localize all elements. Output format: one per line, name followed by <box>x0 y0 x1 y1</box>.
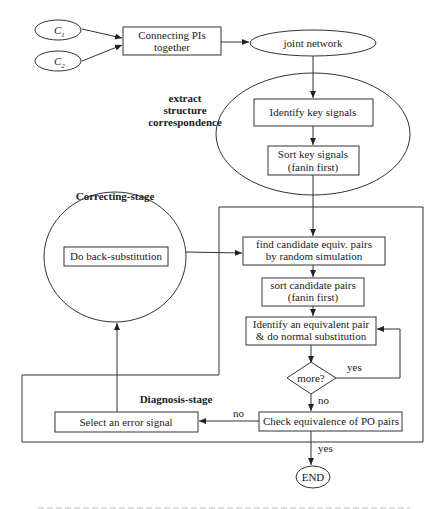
flowchart: C1 C2 Connecting PIs together joint netw… <box>0 0 447 509</box>
svg-text:(fanin first): (fanin first) <box>288 291 339 304</box>
no-label-check: no <box>233 407 245 419</box>
svg-text:Select an error signal: Select an error signal <box>79 416 172 428</box>
yes-label-end: yes <box>318 442 333 454</box>
svg-text:END: END <box>302 471 325 483</box>
find-candidate-box: find candidate equiv. pairs by random si… <box>243 237 385 265</box>
connecting-pis-box: Connecting PIs together <box>123 27 221 55</box>
joint-network-node: joint network <box>250 30 376 56</box>
svg-text:Connecting PIs: Connecting PIs <box>138 29 206 41</box>
svg-text:(fanin first): (fanin first) <box>288 161 339 174</box>
svg-text:Sort key signals: Sort key signals <box>278 148 348 160</box>
arrow-correct-to-find <box>186 252 242 253</box>
svg-text:Identify an equivalent pair: Identify an equivalent pair <box>253 318 370 330</box>
svg-text:correspondence: correspondence <box>148 116 222 128</box>
no-label-decision: no <box>318 394 330 406</box>
check-po-box: Check equivalence of PO pairs <box>259 412 402 431</box>
end-node: END <box>296 466 330 488</box>
extract-structure-label: extract structure correspondence <box>148 92 222 128</box>
diagnosis-stage-label: Diagnosis-stage <box>140 393 213 405</box>
yes-label-loop: yes <box>347 361 362 373</box>
svg-text:structure: structure <box>163 104 206 116</box>
svg-text:Identify key signals: Identify key signals <box>270 106 357 118</box>
identify-pair-box: Identify an equivalent pair & do normal … <box>246 317 376 345</box>
svg-text:joint network: joint network <box>283 37 343 49</box>
arrow-c1-to-connect <box>82 29 122 38</box>
input-c1-node: C1 <box>35 20 81 40</box>
svg-text:find candidate equiv. pairs: find candidate equiv. pairs <box>256 238 372 250</box>
svg-text:extract: extract <box>169 92 202 104</box>
select-error-box: Select an error signal <box>55 412 198 432</box>
svg-text:together: together <box>154 41 190 53</box>
back-substitution-box: Do back-substitution <box>64 247 168 266</box>
svg-text:by random simulation: by random simulation <box>266 250 363 262</box>
svg-text:Check equivalence of PO pairs: Check equivalence of PO pairs <box>263 415 399 427</box>
more-decision-diamond: more? <box>287 362 336 394</box>
input-c2-node: C2 <box>35 51 81 71</box>
svg-text:Do back-substitution: Do back-substitution <box>70 250 162 262</box>
svg-text:sort candidate pairs: sort candidate pairs <box>270 279 356 291</box>
arrow-c2-to-connect <box>82 45 122 61</box>
sort-key-signals-box: Sort key signals (fanin first) <box>268 146 359 175</box>
svg-text:more?: more? <box>297 372 325 384</box>
svg-text:& do normal substitution: & do normal substitution <box>256 330 367 342</box>
identify-key-signals-box: Identify key signals <box>254 99 373 126</box>
sort-candidate-box: sort candidate pairs (fanin first) <box>262 278 364 306</box>
